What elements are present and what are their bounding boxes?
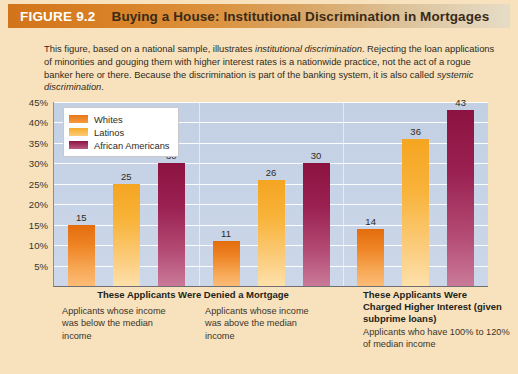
bar-value-label: 11 (221, 228, 231, 239)
bar-latinos-group-2: 26 (258, 180, 285, 286)
legend-label-whites: Whites (94, 114, 123, 125)
figure-container: FIGURE 9.2 Buying a House: Institutional… (0, 0, 518, 374)
legend-swatch-whites (69, 115, 88, 123)
intro-part-1: This figure, based on a national sample,… (44, 43, 255, 54)
bar-chart-plot-area: Whites Latinos African Americans 1525301… (53, 102, 488, 287)
bar-value-label: 25 (121, 171, 132, 182)
bar-value-label: 36 (410, 126, 421, 137)
caption-charged-body: Applicants who have 100% to 120% of medi… (363, 326, 511, 351)
bar-value-label: 43 (455, 97, 466, 108)
y-axis-tick-label: 10% (6, 240, 52, 251)
legend-label-latinos: Latinos (94, 127, 124, 138)
figure-title: Buying a House: Institutional Discrimina… (96, 9, 490, 24)
y-axis-tick-label: 5% (6, 260, 52, 271)
chart-legend: Whites Latinos African Americans (63, 107, 179, 157)
bar-value-label: 26 (266, 167, 277, 178)
intro-emphasis-1: institutional discrimination (255, 43, 362, 54)
legend-label-african-americans: African Americans (94, 140, 170, 151)
caption-above-median: Applicants whose income was above the me… (205, 305, 325, 342)
bar-whites-group-2: 11 (213, 241, 240, 286)
bar-whites-group-1: 15 (68, 225, 95, 286)
bar-value-label: 14 (365, 216, 376, 227)
gridline (54, 102, 488, 103)
bar-latinos-group-3: 36 (402, 139, 429, 286)
bar-latinos-group-1: 25 (113, 184, 140, 286)
bar-whites-group-3: 14 (357, 229, 384, 286)
legend-swatch-african-americans (69, 141, 88, 149)
y-axis-tick-label: 45% (6, 97, 52, 108)
caption-charged-heading: These Applicants Were Charged Higher Int… (363, 289, 503, 325)
caption-below-median: Applicants whose income was below the me… (62, 305, 177, 342)
figure-title-bar: FIGURE 9.2 Buying a House: Institutional… (8, 4, 510, 28)
bar-value-label: 15 (76, 212, 87, 223)
figure-number: FIGURE 9.2 (8, 9, 96, 24)
legend-item-african-americans: African Americans (69, 139, 170, 151)
y-axis-tick-label: 30% (6, 158, 52, 169)
y-axis: 45%40%35%30%25%20%15%10%5% (0, 102, 52, 286)
group-divider (199, 102, 200, 286)
y-axis-tick-label: 35% (6, 137, 52, 148)
bar-value-label: 30 (311, 150, 322, 161)
legend-item-latinos: Latinos (69, 126, 170, 138)
legend-swatch-latinos (69, 128, 88, 136)
legend-item-whites: Whites (69, 113, 170, 125)
bar-african-americans-group-2: 30 (303, 163, 330, 286)
y-axis-tick-label: 25% (6, 178, 52, 189)
figure-description: This figure, based on a national sample,… (44, 43, 496, 93)
bar-african-americans-group-3: 43 (447, 110, 474, 286)
y-axis-tick-label: 20% (6, 199, 52, 210)
intro-part-3: . (101, 81, 104, 92)
y-axis-tick-label: 15% (6, 219, 52, 230)
bar-african-americans-group-1: 30 (158, 163, 185, 286)
caption-denied-heading: These Applicants Were Denied a Mortgage (53, 289, 333, 301)
y-axis-tick-label: 40% (6, 117, 52, 128)
group-divider (343, 102, 344, 286)
